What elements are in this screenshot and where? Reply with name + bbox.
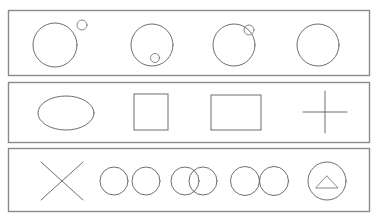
ellipse-shape (38, 96, 94, 130)
shape-chart-figure (0, 0, 380, 223)
cell-large-circle-with-boundary-small-circle (213, 24, 255, 66)
outer-circle (308, 162, 346, 200)
cell-circle-containing-triangle (308, 162, 346, 200)
circle-right (260, 167, 289, 196)
large-circle (213, 24, 255, 66)
cell-square (134, 94, 168, 130)
circle-left (100, 167, 128, 195)
large-circle (297, 24, 339, 66)
rectangle-shape (211, 95, 261, 130)
cell-rectangle (211, 95, 261, 130)
row-1-group (9, 11, 370, 76)
cell-plus-cross (303, 91, 347, 133)
row-3-group (9, 149, 370, 212)
small-circle-external (77, 20, 87, 30)
circle-left (231, 167, 260, 196)
cell-x-cross-mark (41, 162, 83, 200)
row-2-group (9, 83, 370, 143)
cell-ellipse (38, 96, 94, 130)
large-circle (33, 23, 77, 67)
square-shape (134, 94, 168, 130)
cell-large-circle-with-internal-small-circle (131, 24, 173, 66)
small-circle-internal (151, 54, 160, 63)
cell-plain-large-circle (297, 24, 339, 66)
circle-right (132, 167, 160, 195)
cell-two-tangent-circles (231, 167, 289, 196)
cell-large-circle-with-external-small-circle (33, 20, 87, 67)
row-2-frame (9, 83, 370, 143)
inner-triangle (316, 176, 338, 188)
circle-left (171, 167, 199, 195)
cell-two-overlapping-circles (171, 167, 217, 195)
large-circle (131, 24, 173, 66)
circle-right (189, 167, 217, 195)
cell-two-separate-circles (100, 167, 160, 195)
shape-chart-canvas (0, 0, 380, 223)
